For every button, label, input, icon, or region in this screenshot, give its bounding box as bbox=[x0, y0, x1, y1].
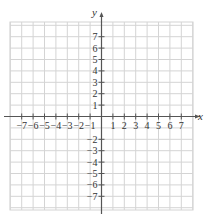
y-axis-label: y bbox=[91, 6, 97, 18]
x-tick-label: −1 bbox=[85, 120, 96, 131]
x-tick-label: −7 bbox=[16, 120, 27, 131]
y-tick-label: −5 bbox=[87, 168, 98, 179]
y-tick-label: 4 bbox=[93, 65, 98, 76]
x-tick-label: −6 bbox=[28, 120, 39, 131]
x-tick-label: −4 bbox=[51, 120, 62, 131]
coordinate-plane: −7−6−5−4−3−2−112345677654321−2−3−4−5−6−7… bbox=[0, 0, 208, 219]
x-tick-label: 4 bbox=[145, 120, 150, 131]
x-tick-label: 5 bbox=[156, 120, 161, 131]
x-tick-label: 1 bbox=[110, 120, 115, 131]
x-tick-label: 7 bbox=[179, 120, 184, 131]
y-tick-label: −4 bbox=[87, 157, 98, 168]
y-tick-label: 7 bbox=[93, 31, 98, 42]
y-tick-label: −6 bbox=[87, 179, 98, 190]
y-tick-label: 1 bbox=[93, 100, 98, 111]
x-tick-label: −2 bbox=[73, 120, 84, 131]
x-axis-label: x bbox=[197, 110, 203, 122]
y-tick-label: 3 bbox=[93, 77, 98, 88]
y-axis-arrow-icon bbox=[100, 12, 104, 17]
y-tick-label: 6 bbox=[93, 43, 98, 54]
x-tick-label: 2 bbox=[122, 120, 127, 131]
x-tick-label: 6 bbox=[167, 120, 172, 131]
y-tick-label: 5 bbox=[93, 54, 98, 65]
y-tick-label: −7 bbox=[87, 191, 98, 202]
x-tick-label: 3 bbox=[133, 120, 138, 131]
y-tick-label: −3 bbox=[87, 145, 98, 156]
x-tick-label: −3 bbox=[62, 120, 73, 131]
y-tick-label: 2 bbox=[93, 88, 98, 99]
y-tick-label: −2 bbox=[87, 134, 98, 145]
x-tick-label: −5 bbox=[39, 120, 50, 131]
